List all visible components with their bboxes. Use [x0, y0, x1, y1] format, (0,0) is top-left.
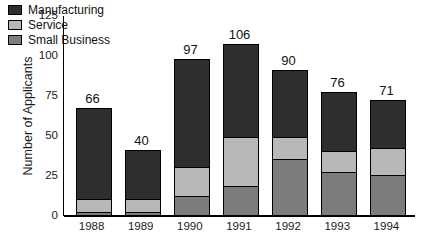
bar-segment-service[interactable]: [224, 137, 258, 187]
x-axis-tick-label: 1991: [222, 220, 256, 232]
bar-total-label: 66: [85, 91, 99, 106]
bar-total-label: 76: [330, 75, 344, 90]
y-axis-tick-label: 25: [24, 170, 58, 181]
chart-legend: ManufacturingServiceSmall Business: [8, 4, 110, 46]
bar-total-label: 97: [183, 42, 197, 57]
bar-column-1989[interactable]: 40: [125, 16, 159, 215]
bar-segment-manufacturing[interactable]: [77, 109, 111, 199]
bar-segment-small-business[interactable]: [126, 212, 160, 215]
x-axis-tick-label: 1988: [75, 220, 109, 232]
bar-stack[interactable]: [370, 100, 406, 215]
legend-swatch-icon: [8, 35, 22, 45]
bar-segment-manufacturing[interactable]: [273, 71, 307, 137]
bar-series-container: 664097106907671: [64, 16, 415, 215]
bar-segment-service[interactable]: [273, 137, 307, 159]
bar-stack[interactable]: [321, 92, 357, 215]
legend-item-label: Manufacturing: [28, 4, 104, 16]
legend-item-service[interactable]: Service: [8, 19, 110, 31]
x-axis-tick-label: 1989: [124, 220, 158, 232]
bar-segment-small-business[interactable]: [77, 212, 111, 215]
bar-segment-manufacturing[interactable]: [322, 93, 356, 151]
bar-segment-small-business[interactable]: [175, 196, 209, 215]
legend-swatch-icon: [8, 5, 22, 15]
y-axis-tick-label: 75: [24, 90, 58, 101]
x-axis-tick-label: 1994: [369, 220, 403, 232]
stacked-bar-chart: Number of Applicants 1251007550250 66409…: [0, 0, 428, 250]
bar-segment-service[interactable]: [371, 148, 405, 175]
bar-segment-small-business[interactable]: [224, 186, 258, 215]
bar-total-label: 90: [281, 53, 295, 68]
y-axis-tick-label: 0: [24, 210, 58, 221]
bar-stack[interactable]: [272, 70, 308, 215]
bar-segment-service[interactable]: [77, 199, 111, 212]
bar-segment-service[interactable]: [322, 151, 356, 172]
bar-total-label: 40: [134, 133, 148, 148]
x-axis-tick-labels: 1988198919901991199219931994: [63, 220, 415, 232]
plot-area: 664097106907671: [63, 16, 415, 216]
legend-item-manufacturing[interactable]: Manufacturing: [8, 4, 110, 16]
bar-column-1992[interactable]: 90: [272, 16, 306, 215]
bar-stack[interactable]: [76, 108, 112, 215]
bar-segment-manufacturing[interactable]: [175, 60, 209, 167]
legend-item-label: Small Business: [28, 34, 110, 46]
bar-segment-small-business[interactable]: [371, 175, 405, 215]
bar-segment-manufacturing[interactable]: [371, 101, 405, 147]
bar-segment-small-business[interactable]: [322, 172, 356, 215]
bar-column-1994[interactable]: 71: [370, 16, 404, 215]
x-axis-tick-label: 1992: [271, 220, 305, 232]
bar-total-label: 106: [229, 27, 251, 42]
bar-column-1991[interactable]: 106: [223, 16, 257, 215]
x-axis-tick-label: 1990: [173, 220, 207, 232]
bar-segment-manufacturing[interactable]: [224, 45, 258, 136]
bar-segment-service[interactable]: [175, 167, 209, 196]
legend-item-label: Service: [28, 19, 68, 31]
bar-column-1990[interactable]: 97: [174, 16, 208, 215]
bar-stack[interactable]: [125, 150, 161, 215]
y-axis-tick-label: 50: [24, 130, 58, 141]
bar-segment-manufacturing[interactable]: [126, 151, 160, 199]
bar-stack[interactable]: [174, 59, 210, 215]
y-axis-tick-label: 100: [24, 50, 58, 61]
bar-segment-service[interactable]: [126, 199, 160, 212]
bar-stack[interactable]: [223, 44, 259, 215]
bar-column-1993[interactable]: 76: [321, 16, 355, 215]
x-axis-tick-label: 1993: [320, 220, 354, 232]
bar-total-label: 71: [379, 83, 393, 98]
legend-item-small-business[interactable]: Small Business: [8, 34, 110, 46]
bar-segment-small-business[interactable]: [273, 159, 307, 215]
legend-swatch-icon: [8, 20, 22, 30]
